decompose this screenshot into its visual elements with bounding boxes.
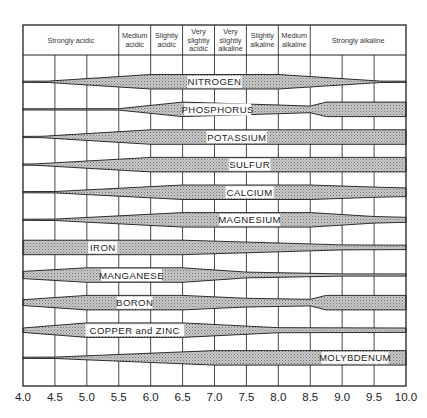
header-zone-label: Strongly alkaline — [332, 36, 385, 45]
band-shape — [23, 268, 406, 283]
band-potassium: POTASSIUM — [23, 130, 406, 145]
header-zone-label: Strongly acidic — [48, 36, 95, 45]
band-shape — [23, 295, 406, 310]
band-label: POTASSIUM — [207, 132, 266, 143]
x-tick-label: 5.0 — [79, 391, 95, 403]
band-phosphorus: PHOSPHORUS — [23, 102, 406, 117]
band-label: CALCIUM — [227, 187, 273, 198]
band-molybdenum: MOLYBDENUM — [23, 351, 406, 366]
x-tick-label: 4.0 — [15, 391, 31, 403]
band-label: MOLYBDENUM — [319, 352, 391, 363]
band-calcium: CALCIUM — [23, 185, 406, 200]
acidity-header: Strongly acidicMediumacidicSlightlyacidi… — [48, 27, 385, 52]
x-tick-label: 7.0 — [207, 391, 223, 403]
band-label: MANGANESE — [99, 270, 164, 281]
band-nitrogen: NITROGEN — [23, 75, 406, 90]
band-shape — [23, 185, 406, 200]
x-tick-label: 7.5 — [238, 391, 254, 403]
band-manganese: MANGANESE — [23, 268, 406, 283]
band-boron: BORON — [23, 295, 406, 310]
header-zone-label: alkaline — [218, 44, 242, 53]
x-tick-label: 9.5 — [366, 391, 382, 403]
x-tick-label: 5.5 — [111, 391, 127, 403]
x-tick-label: 9.0 — [334, 391, 350, 403]
band-shape — [23, 213, 406, 228]
band-iron: IRON — [23, 240, 406, 255]
nutrient-availability-chart: Strongly acidicMediumacidicSlightlyacidi… — [0, 0, 427, 418]
header-zone-label: acidic — [189, 44, 208, 53]
band-copper-and-zinc: COPPER and ZINC — [23, 323, 406, 338]
x-tick-label: 4.5 — [47, 391, 63, 403]
header-zone-label: acidic — [126, 40, 145, 49]
band-label: COPPER and ZINC — [90, 325, 180, 336]
x-tick-label: 6.0 — [143, 391, 159, 403]
band-label: IRON — [90, 242, 116, 253]
band-shape — [23, 157, 406, 172]
header-zone-label: alkaline — [250, 40, 274, 49]
header-zone-label: alkaline — [282, 40, 306, 49]
band-label: BORON — [116, 297, 153, 308]
band-label: NITROGEN — [188, 76, 242, 87]
x-tick-label: 6.5 — [175, 391, 191, 403]
band-label: MAGNESIUM — [218, 214, 281, 225]
x-tick-label: 10.0 — [395, 391, 417, 403]
header-zone-label: acidic — [157, 40, 176, 49]
x-tick-label: 8.0 — [270, 391, 286, 403]
x-tick-label: 8.5 — [302, 391, 318, 403]
band-sulfur: SULFUR — [23, 157, 406, 172]
band-magnesium: MAGNESIUM — [23, 213, 406, 228]
band-label: SULFUR — [229, 159, 270, 170]
band-shape — [23, 323, 406, 338]
x-axis-ticks: 4.04.55.05.56.06.57.07.58.08.59.09.510.0 — [15, 391, 417, 403]
band-label: PHOSPHORUS — [182, 104, 254, 115]
band-shape — [23, 240, 406, 255]
